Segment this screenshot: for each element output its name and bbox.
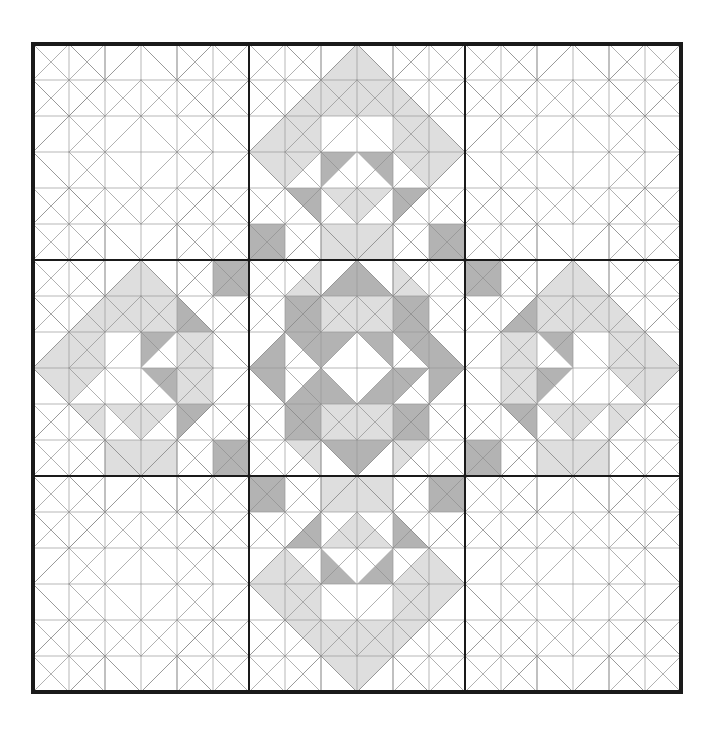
quilt-layout-svg xyxy=(0,0,701,739)
quilt-diagram-figure xyxy=(0,0,701,739)
